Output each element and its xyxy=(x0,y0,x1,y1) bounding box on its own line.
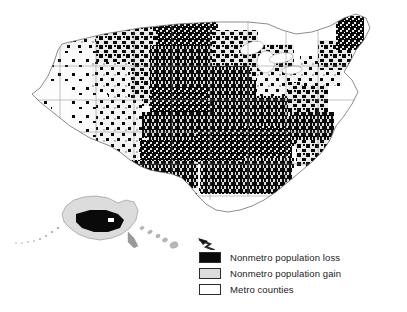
figure-container: Nonmetro population loss Nonmetro popula… xyxy=(0,0,407,312)
legend-swatch-nonmetro-gain xyxy=(199,268,221,279)
us-county-map xyxy=(0,0,407,250)
legend-item-nonmetro-loss: Nonmetro population loss xyxy=(199,249,399,265)
map-legend: Nonmetro population loss Nonmetro popula… xyxy=(199,249,399,297)
legend-swatch-nonmetro-loss xyxy=(199,252,221,263)
map-svg xyxy=(0,0,407,250)
legend-swatch-metro-counties xyxy=(199,284,221,295)
legend-label-nonmetro-gain: Nonmetro population gain xyxy=(230,268,341,279)
legend-item-nonmetro-gain: Nonmetro population gain xyxy=(199,265,399,281)
caption-strip xyxy=(0,303,407,312)
legend-label-nonmetro-loss: Nonmetro population loss xyxy=(230,252,340,263)
legend-item-metro-counties: Metro counties xyxy=(199,281,399,297)
legend-label-metro-counties: Metro counties xyxy=(230,284,294,295)
